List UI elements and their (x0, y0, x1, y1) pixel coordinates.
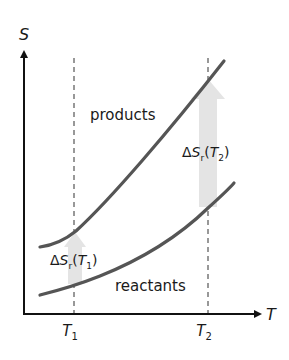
entropy-diagram: S T T1 T2 products reactants ΔSr(T1) ΔSr… (0, 0, 289, 360)
t1-label: T1 (62, 322, 78, 342)
y-axis-label: S (19, 25, 29, 44)
x-axis-label: T (266, 305, 277, 324)
t2-label: T2 (196, 322, 212, 342)
products-label: products (90, 106, 156, 124)
reactants-label: reactants (115, 277, 186, 295)
